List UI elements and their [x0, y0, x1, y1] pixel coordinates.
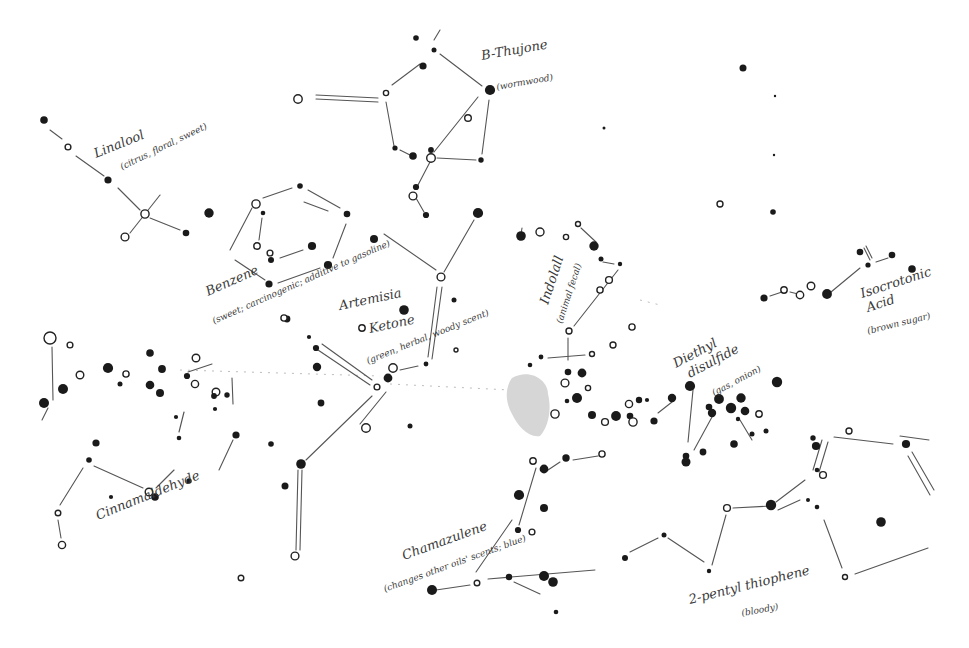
star	[177, 436, 182, 441]
constellation-line	[864, 248, 870, 260]
star	[611, 411, 621, 421]
star	[123, 371, 129, 377]
star	[815, 468, 820, 473]
star	[427, 585, 437, 595]
constellation-line	[548, 355, 585, 358]
star	[121, 233, 129, 241]
star	[174, 415, 178, 419]
star	[540, 465, 549, 474]
constellation-name: B-Thujone	[479, 36, 549, 63]
star	[810, 435, 815, 440]
constellation-note: (brown sugar)	[866, 310, 932, 335]
star	[515, 527, 521, 533]
star	[384, 374, 393, 383]
star	[291, 552, 299, 560]
star	[554, 610, 559, 615]
constellation-b-thujone[interactable]	[316, 30, 489, 212]
constellation-line	[776, 480, 805, 502]
star	[730, 440, 738, 448]
nebula-patch	[507, 374, 550, 436]
constellation-name: Artemisia	[337, 285, 403, 313]
constellation-line	[437, 158, 476, 160]
star	[254, 243, 260, 249]
star	[516, 231, 526, 241]
star	[585, 385, 590, 390]
star	[183, 230, 190, 237]
star	[741, 407, 750, 416]
constellation-line	[316, 95, 378, 98]
star	[572, 393, 582, 403]
constellation-line	[855, 548, 928, 574]
constellation-line	[280, 250, 303, 258]
star	[625, 400, 632, 407]
star	[141, 210, 149, 218]
star	[58, 541, 65, 548]
star	[599, 451, 605, 457]
constellation-line	[416, 198, 424, 212]
faint-line	[390, 384, 510, 390]
constellation-line	[603, 262, 614, 264]
star	[590, 352, 595, 357]
constellation-line	[778, 500, 800, 510]
constellation-line	[740, 420, 752, 440]
constellation-line	[432, 287, 442, 359]
constellation-chamazulene[interactable]	[436, 456, 598, 594]
star	[184, 373, 190, 379]
constellation-line	[52, 347, 53, 400]
constellation-line	[712, 515, 726, 565]
constellation-line	[188, 364, 212, 372]
star	[756, 411, 762, 417]
star	[576, 222, 581, 227]
star	[774, 95, 776, 97]
constellation-line	[42, 408, 48, 420]
constellation-cinnamaldehyde[interactable]	[42, 347, 233, 538]
star	[39, 398, 49, 408]
constellation-line	[548, 462, 560, 470]
star	[506, 574, 512, 580]
star	[92, 439, 99, 446]
star	[530, 458, 536, 464]
star	[599, 257, 604, 262]
faint-line	[640, 300, 660, 305]
constellation-line	[581, 228, 596, 242]
star	[408, 424, 413, 429]
star	[708, 409, 716, 417]
star	[419, 62, 426, 69]
constellation-line	[482, 100, 489, 154]
star	[700, 449, 707, 456]
star	[629, 418, 637, 426]
star	[424, 362, 429, 367]
star	[158, 365, 166, 373]
constellation-2-pentylthiophene[interactable]	[630, 436, 934, 574]
star	[65, 144, 71, 150]
star	[876, 517, 886, 527]
star	[865, 262, 870, 267]
star	[764, 429, 769, 434]
star	[423, 212, 429, 218]
star	[766, 500, 776, 510]
star	[261, 211, 266, 216]
constellation-line	[384, 234, 436, 270]
constellation-line	[304, 202, 328, 211]
star	[267, 250, 273, 256]
constellation-line	[50, 130, 62, 139]
star	[781, 287, 787, 293]
star	[427, 154, 436, 163]
star	[413, 35, 419, 41]
constellation-map: Linalool(citrus, floral, sweet)B-Thujone…	[0, 0, 969, 648]
constellation-line	[514, 582, 540, 594]
star	[726, 403, 736, 413]
constellation-line	[316, 99, 378, 102]
star	[478, 157, 483, 162]
star	[191, 380, 198, 387]
star	[812, 442, 820, 450]
star	[213, 407, 217, 411]
constellation-line	[360, 392, 386, 424]
star	[707, 569, 711, 573]
constellation-name: Isocrotonic	[857, 264, 933, 302]
star	[307, 335, 311, 339]
constellation-line	[232, 378, 233, 404]
constellation-name: Benzene	[202, 262, 261, 299]
star	[618, 262, 622, 266]
constellation-line	[428, 287, 437, 357]
